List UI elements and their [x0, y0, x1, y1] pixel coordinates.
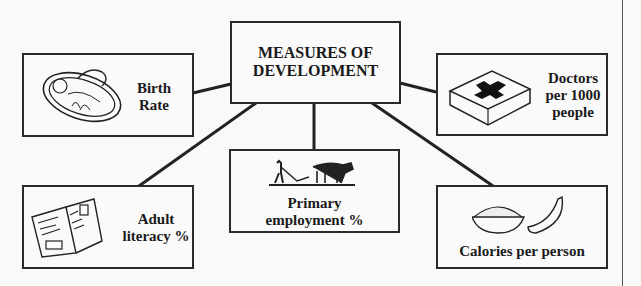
ox-plough-icon: [269, 157, 359, 189]
center-title-line-2: DEVELOPMENT: [232, 62, 399, 80]
literacy-line-1: Adult: [116, 211, 196, 228]
birth-rate-line-1: Birth: [124, 80, 184, 97]
baby-basket-icon: [38, 64, 128, 124]
page-border-line: [622, 0, 623, 286]
node-adult-literacy: Adult literacy %: [22, 185, 194, 269]
primary-line-2: employment %: [231, 212, 398, 229]
doctors-line-2: per 1000: [538, 87, 608, 104]
doctors-line-1: Doctors: [538, 70, 608, 87]
open-book-icon: [30, 197, 110, 259]
primary-line-1: Primary: [231, 195, 398, 212]
food-bowl-banana-icon: [472, 195, 572, 239]
node-doctors: Doctors per 1000 people: [436, 53, 608, 136]
calories-line-1: Calories per person: [438, 243, 606, 260]
birth-rate-line-2: Rate: [124, 97, 184, 114]
node-primary-employment: Primary employment %: [229, 149, 400, 233]
center-node: MEASURES OF DEVELOPMENT: [230, 21, 401, 104]
node-calories: Calories per person: [436, 185, 608, 269]
node-birth-rate: Birth Rate: [22, 53, 194, 137]
doctors-line-3: people: [538, 104, 608, 121]
literacy-line-2: literacy %: [116, 228, 196, 245]
first-aid-box-icon: [446, 63, 536, 127]
center-title-line-1: MEASURES OF: [232, 44, 399, 62]
